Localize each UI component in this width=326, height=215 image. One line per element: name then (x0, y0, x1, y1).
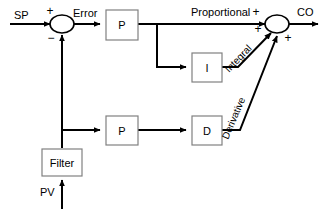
sign-derivative-plus: + (284, 31, 291, 45)
pid-block-diagram: P I P D Filter SP Error PV CO Proportion… (0, 0, 326, 215)
label-process-variable: PV (40, 186, 55, 198)
label-setpoint: SP (14, 9, 29, 21)
block-proportional-top-label: P (118, 19, 125, 31)
label-integral-path: Integral (223, 43, 254, 75)
block-filter-label: Filter (50, 157, 75, 169)
sign-proportional-plus: + (252, 5, 259, 19)
diagram-canvas: P I P D Filter SP Error PV CO Proportion… (0, 0, 326, 215)
label-proportional-path: Proportional (191, 6, 250, 18)
wire-proportional-branch-to-integral-block (157, 24, 186, 67)
block-derivative-label: D (203, 125, 211, 137)
block-integral-label: I (205, 62, 208, 74)
sign-integral-plus: + (254, 22, 261, 36)
sign-setpoint-plus: + (46, 4, 53, 18)
label-derivative-path: Derivative (220, 95, 248, 141)
label-controller-output: CO (297, 6, 314, 18)
label-error: Error (73, 7, 98, 19)
sign-pv-minus: − (47, 31, 54, 45)
block-proportional-bottom-label: P (118, 125, 125, 137)
